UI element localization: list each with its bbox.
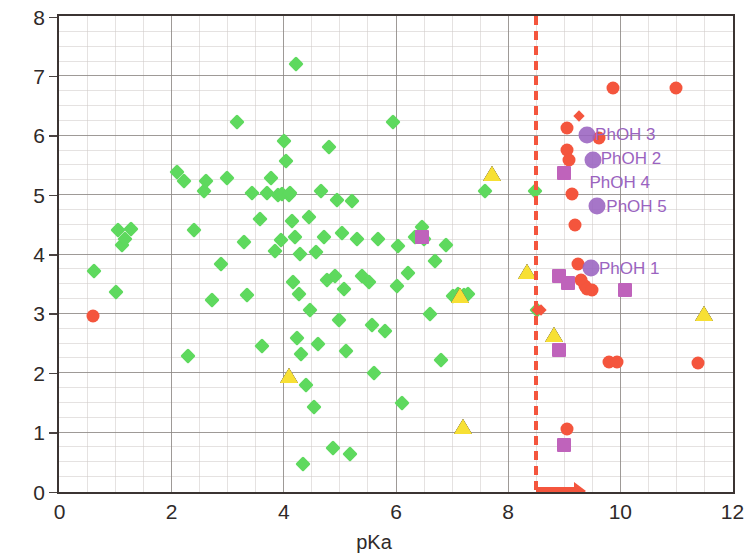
- x-tick-label: 6: [366, 500, 426, 524]
- annotations-layer: [59, 16, 733, 492]
- x-tick-label: 12: [703, 500, 748, 524]
- y-tick-label: 8: [5, 17, 45, 38]
- point-label: PhOH 3: [595, 125, 655, 145]
- y-tick-mark: [49, 492, 57, 494]
- y-tick-label: 2: [5, 373, 45, 394]
- y-tick-label: 4: [5, 254, 45, 275]
- y-tick-label: 7: [5, 76, 45, 97]
- plot-area: [57, 14, 735, 494]
- y-tick-mark: [49, 76, 57, 78]
- y-tick-label: 5: [5, 195, 45, 216]
- point-label: PhOH 5: [606, 197, 666, 217]
- y-tick-label: 3: [5, 313, 45, 334]
- point-label: PhOH 2: [601, 149, 661, 169]
- y-tick-mark: [49, 373, 57, 375]
- x-tick-label: 10: [590, 500, 650, 524]
- point-label: PhOH 1: [599, 259, 659, 279]
- y-tick-mark: [49, 313, 57, 315]
- y-tick-mark: [49, 254, 57, 256]
- y-tick-label: 6: [5, 135, 45, 156]
- threshold-arrow-icon: [536, 487, 575, 493]
- y-tick-label: 1: [5, 432, 45, 453]
- y-tick-mark: [49, 195, 57, 197]
- y-tick-mark: [49, 135, 57, 137]
- x-axis-title: pKa: [0, 531, 748, 554]
- scatter-plot-figure: { "chart_data": { "type": "scatter", "ti…: [0, 0, 748, 555]
- x-tick-label: 8: [478, 500, 538, 524]
- point-label: PhOH 4: [589, 173, 649, 193]
- threshold-dashed-line: [534, 16, 538, 492]
- x-tick-label: 4: [254, 500, 314, 524]
- y-tick-mark: [49, 432, 57, 434]
- x-tick-label: 2: [142, 500, 202, 524]
- x-tick-label: 0: [30, 500, 90, 524]
- y-tick-mark: [49, 17, 57, 19]
